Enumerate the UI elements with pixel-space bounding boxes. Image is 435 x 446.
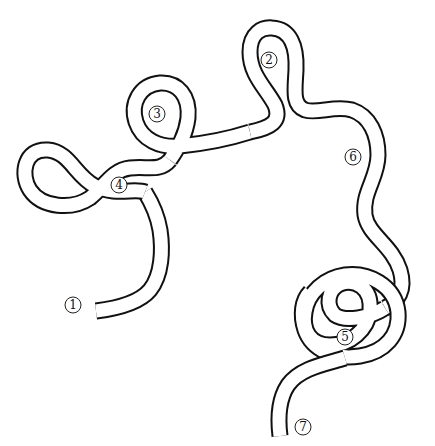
- label-1: 1: [65, 297, 81, 313]
- label-7: 7: [295, 419, 311, 435]
- label-4-text: 4: [115, 178, 123, 192]
- label-3: 3: [149, 106, 165, 122]
- strand-segment-tail: [279, 358, 345, 436]
- label-4: 4: [111, 177, 127, 193]
- diagram-canvas: 1 2 3 4 5 6 7: [0, 0, 435, 446]
- strand-segment-coil-5: [302, 275, 398, 357]
- label-6-text: 6: [349, 150, 357, 164]
- strand-segment-loop-3: [134, 83, 250, 160]
- label-6: 6: [345, 149, 361, 165]
- label-2-text: 2: [265, 53, 273, 67]
- label-7-text: 7: [299, 420, 307, 434]
- label-3-text: 3: [153, 107, 161, 121]
- label-2: 2: [261, 52, 277, 68]
- label-1-text: 1: [69, 298, 77, 312]
- strand-segment-start: [96, 192, 161, 311]
- label-5-text: 5: [341, 330, 349, 344]
- label-5: 5: [337, 329, 353, 345]
- strand-diagram: 1 2 3 4 5 6 7: [0, 0, 435, 446]
- strand-segment-loop-2: [250, 28, 402, 308]
